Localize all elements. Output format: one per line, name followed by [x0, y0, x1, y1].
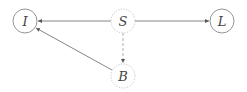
node-s-label: S: [119, 14, 128, 29]
node-b: B: [111, 64, 135, 88]
causal-diagram: I S L B: [0, 0, 247, 92]
node-l-label: L: [217, 14, 227, 29]
edge-b-to-i: [36, 28, 112, 70]
node-i: I: [13, 9, 37, 33]
node-s: S: [111, 9, 135, 33]
node-i-label: I: [21, 14, 28, 29]
node-b-label: B: [117, 69, 128, 84]
node-l: L: [210, 9, 234, 33]
